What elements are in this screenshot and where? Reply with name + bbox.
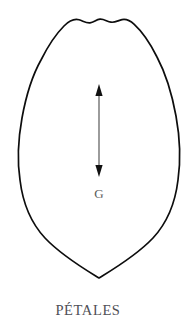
- petal-diagram-canvas: G PÉTALES: [0, 0, 196, 334]
- petal-figure: G PÉTALES: [0, 0, 196, 334]
- figure-caption: PÉTALES: [55, 302, 120, 318]
- dimension-label-g: G: [94, 186, 103, 201]
